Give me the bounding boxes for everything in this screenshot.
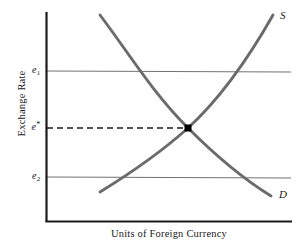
demand-curve-label: D — [279, 188, 287, 200]
y-tick-label-e-star: e* — [10, 121, 40, 132]
y-tick-label-e1: e1 — [10, 64, 40, 75]
y-tick-e2-base: e — [32, 170, 36, 181]
supply-curve — [100, 15, 273, 192]
reference-line-e1 — [46, 71, 291, 72]
chart-plot-area — [0, 0, 300, 245]
supply-curve-label: S — [280, 9, 286, 21]
y-tick-e1-subscript: 1 — [37, 69, 41, 77]
y-axis-title: Exchange Rate — [16, 39, 27, 169]
y-tick-e1-base: e — [32, 64, 36, 75]
y-tick-label-e2: e2 — [10, 170, 40, 181]
reference-line-e2 — [46, 177, 291, 178]
demand-curve — [100, 15, 271, 196]
equilibrium-point-marker — [185, 125, 192, 132]
y-tick-e-star-superscript: * — [36, 120, 40, 129]
exchange-rate-supply-demand-chart: Exchange Rate Units of Foreign Currency … — [0, 0, 300, 245]
x-axis-title: Units of Foreign Currency — [46, 228, 292, 239]
y-tick-e2-subscript: 2 — [37, 175, 41, 183]
